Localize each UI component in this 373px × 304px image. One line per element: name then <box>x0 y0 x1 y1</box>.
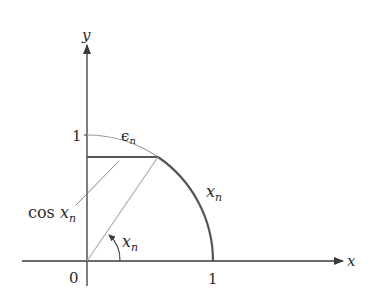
angle-arc <box>109 235 120 261</box>
unit-circle-diagram: y x 0 1 1 ϵn xn cos xn xn <box>0 0 373 304</box>
angle-xn-label: xn <box>122 232 138 254</box>
cos-leader-line <box>76 162 118 205</box>
epsilon-n-label: ϵn <box>121 127 136 146</box>
x-axis-label: x <box>347 252 356 270</box>
origin-label: 0 <box>69 269 79 287</box>
cos-xn-label: cos xn <box>28 203 76 225</box>
arc-xn-label: xn <box>206 182 222 204</box>
x-tick-label-1: 1 <box>208 270 218 288</box>
y-axis-label: y <box>81 26 91 44</box>
y-tick-label-1: 1 <box>72 127 82 145</box>
xn-arc <box>158 157 213 261</box>
